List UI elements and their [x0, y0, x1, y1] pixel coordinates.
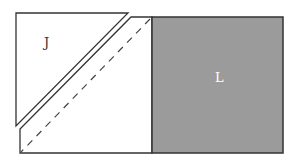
- diagram-canvas: J L: [0, 0, 294, 161]
- square-l: [152, 17, 283, 153]
- label-l: L: [215, 70, 224, 85]
- label-j: J: [42, 35, 49, 50]
